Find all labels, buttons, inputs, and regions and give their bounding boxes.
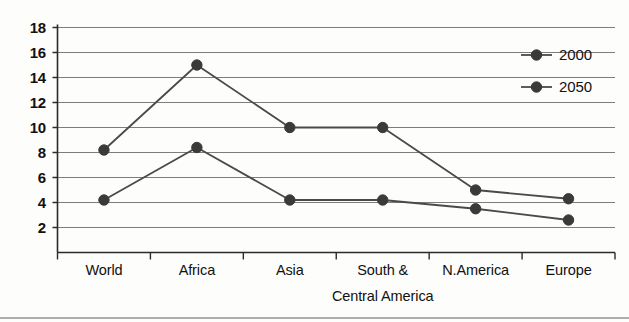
data-point-2000-Asia [285, 122, 295, 132]
series-line-2000 [104, 65, 569, 199]
data-point-2000-NAmerica [470, 185, 480, 195]
x-tick-label-line2: Central America [323, 288, 442, 304]
data-point-2000-Europe [563, 194, 573, 204]
y-tick-label-16: 16 [8, 45, 46, 60]
y-tick-label-10: 10 [8, 120, 46, 135]
data-point-2000-World [99, 145, 109, 155]
data-point-2050-Africa [192, 142, 202, 152]
line-chart: 24681012141618 WorldAfricaAsiaSouth &Cen… [0, 0, 629, 322]
legend-marker-2050 [531, 82, 541, 92]
legend-glyphs-group [521, 50, 552, 92]
y-tick-label-8: 8 [8, 145, 46, 160]
data-point-2050-Asia [285, 195, 295, 205]
y-tick-label-14: 14 [8, 70, 46, 85]
x-tick-label-5: Europe [509, 262, 628, 278]
data-point-2000-South [378, 122, 388, 132]
data-point-2050-South [378, 195, 388, 205]
legend-marker-2000 [531, 50, 541, 60]
y-tick-label-12: 12 [8, 95, 46, 110]
data-point-2050-NAmerica [470, 204, 480, 214]
x-tick-label-line1: Europe [509, 262, 628, 278]
axes-group [58, 25, 616, 253]
data-point-2000-Africa [192, 60, 202, 70]
legend-label-2050: 2050 [559, 78, 592, 95]
y-tick-label-2: 2 [8, 220, 46, 235]
x-tick-marks-group [58, 253, 616, 260]
y-tick-label-18: 18 [8, 20, 46, 35]
y-tick-label-4: 4 [8, 195, 46, 210]
legend-label-2000: 2000 [559, 46, 592, 63]
data-series-group [99, 60, 574, 225]
series-line-2050 [104, 148, 569, 221]
data-point-2050-Europe [563, 215, 573, 225]
data-point-2050-World [99, 195, 109, 205]
bottom-divider-rule [0, 317, 629, 319]
y-tick-label-6: 6 [8, 170, 46, 185]
